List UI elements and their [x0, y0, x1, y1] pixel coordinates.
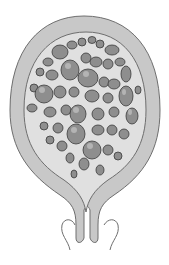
illustration-canvas — [0, 0, 169, 265]
vaginal-fold-right — [104, 220, 118, 250]
vaginal-fold-left — [62, 220, 75, 250]
uterus-illustration — [0, 0, 169, 265]
